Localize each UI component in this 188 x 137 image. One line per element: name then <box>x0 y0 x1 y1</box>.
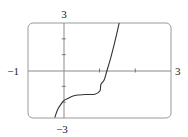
x-min-label: −1 <box>7 65 19 77</box>
y-min-label: −3 <box>56 123 68 135</box>
chart: 3 −3 −1 3 <box>0 0 188 137</box>
y-max-label: 3 <box>61 8 67 20</box>
x-max-label: 3 <box>175 65 181 77</box>
